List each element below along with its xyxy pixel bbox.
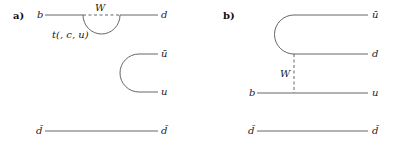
uu-pair-line	[120, 54, 158, 92]
diagram-a: a) b W d t(, c, u) ū u d̄ d̄	[13, 2, 169, 136]
feynman-diagrams: a) b W d t(, c, u) ū u d̄ d̄ b) ū d W b …	[0, 0, 394, 144]
label-dbar-right: d̄	[161, 125, 169, 136]
label-w: W	[95, 2, 106, 13]
panel-label-b: b)	[223, 10, 235, 21]
label-dbar-left: d̄	[36, 125, 44, 136]
label-loop-quarks: t(, c, u)	[52, 29, 89, 40]
label-u: u	[372, 87, 378, 98]
panel-label-a: a)	[13, 10, 24, 21]
label-u: u	[161, 86, 167, 97]
diagram-b: b) ū d W b u d̄ d̄	[223, 9, 380, 136]
label-ubar: ū	[161, 48, 167, 59]
label-dbar-right: d̄	[372, 125, 380, 136]
label-dbar-left: d̄	[248, 125, 256, 136]
ud-pair-line	[275, 15, 369, 54]
label-ubar: ū	[372, 9, 378, 20]
label-d: d	[372, 48, 378, 59]
label-b: b	[249, 87, 255, 98]
label-w: W	[280, 68, 291, 79]
label-d: d	[161, 9, 167, 20]
label-b: b	[37, 9, 43, 20]
